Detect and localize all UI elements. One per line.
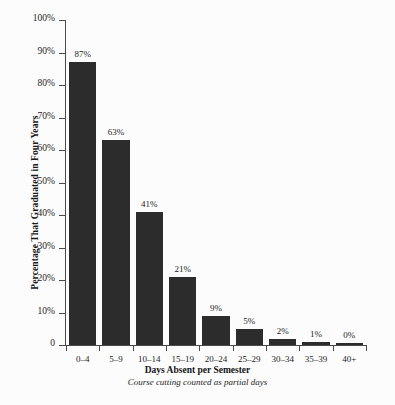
x-axis-tick-mark	[133, 345, 134, 351]
y-axis-tick-label: 10%	[38, 306, 55, 316]
x-axis-category-label: 40+	[333, 354, 366, 364]
x-axis-category-label: 15–19	[166, 354, 199, 364]
bar-slot[interactable]: 63%	[99, 20, 132, 345]
bar-value-label: 0%	[333, 330, 366, 340]
y-axis-tick-label: 80%	[38, 78, 55, 88]
y-axis-tick-mark	[59, 118, 66, 119]
bar-value-label: 21%	[166, 264, 199, 274]
x-axis-tick-mark	[299, 345, 300, 351]
bar-slot[interactable]: 5%	[233, 20, 266, 345]
y-axis-tick-label: 100%	[33, 13, 55, 23]
x-axis-tick-mark	[166, 345, 167, 351]
x-axis-tick-mark	[66, 345, 67, 351]
x-axis-tick-mark	[99, 345, 100, 351]
x-axis-tick-mark	[366, 345, 367, 351]
x-axis-tick-mark	[266, 345, 267, 351]
bar-slot[interactable]: 87%	[66, 20, 99, 345]
bar-chart-figure: Percentage That Graduated in Four Years …	[0, 0, 395, 405]
y-axis-tick-mark	[59, 85, 66, 86]
bar-value-label: 41%	[133, 199, 166, 209]
bar-value-label: 9%	[199, 303, 232, 313]
x-axis-category-label: 5–9	[99, 354, 132, 364]
y-axis-tick-label: 90%	[38, 46, 55, 56]
bar[interactable]	[169, 277, 196, 345]
bar-slot[interactable]: 1%	[299, 20, 332, 345]
bar-value-label: 1%	[299, 329, 332, 339]
bar-value-label: 2%	[266, 326, 299, 336]
x-axis-line	[65, 345, 366, 346]
plot-area: 010%20%30%40%50%60%70%80%90%100% 87%63%4…	[66, 20, 366, 345]
y-axis-tick-mark	[59, 280, 66, 281]
bar[interactable]	[136, 212, 163, 345]
bar[interactable]	[202, 316, 229, 345]
x-axis-category-label: 0–4	[66, 354, 99, 364]
y-axis-tick-mark	[59, 248, 66, 249]
bar-series: 87%63%41%21%9%5%2%1%0%	[66, 20, 366, 345]
bar[interactable]	[336, 343, 363, 346]
y-axis-title: Percentage That Graduated in Four Years	[28, 0, 42, 405]
x-axis-category-label: 10–14	[133, 354, 166, 364]
bar-value-label: 87%	[66, 49, 99, 59]
y-axis-tick-label: 70%	[38, 111, 55, 121]
y-axis-tick-mark	[59, 53, 66, 54]
y-axis-tick-label: 0	[50, 338, 55, 348]
bar-slot[interactable]: 2%	[266, 20, 299, 345]
bar-value-label: 63%	[99, 127, 132, 137]
x-axis-category-label: 20–24	[199, 354, 232, 364]
y-axis-tick-label: 30%	[38, 241, 55, 251]
bar[interactable]	[269, 339, 296, 346]
bar-value-label: 5%	[233, 316, 266, 326]
y-axis-tick-mark	[59, 20, 66, 21]
y-axis-tick-label: 40%	[38, 208, 55, 218]
y-axis-tick-label: 60%	[38, 143, 55, 153]
bar[interactable]	[69, 62, 96, 345]
y-axis-tick-label: 50%	[38, 176, 55, 186]
y-axis-tick-mark	[59, 183, 66, 184]
y-axis-tick-mark	[59, 150, 66, 151]
bar-slot[interactable]: 9%	[199, 20, 232, 345]
y-axis-tick-mark	[59, 313, 66, 314]
x-axis-category-label: 35–39	[299, 354, 332, 364]
x-axis-tick-mark	[199, 345, 200, 351]
bar-slot[interactable]: 0%	[333, 20, 366, 345]
bar-slot[interactable]: 21%	[166, 20, 199, 345]
y-axis-tick-mark	[59, 215, 66, 216]
bar[interactable]	[302, 342, 329, 345]
x-axis-tick-mark	[333, 345, 334, 351]
x-axis-subtitle: Course cutting counted as partial days	[0, 377, 395, 387]
y-axis-tick-mark	[59, 345, 66, 346]
x-axis-category-label: 30–34	[266, 354, 299, 364]
x-axis-tick-mark	[233, 345, 234, 351]
x-axis-category-label: 25–29	[233, 354, 266, 364]
x-axis-title: Days Absent per Semester	[0, 365, 395, 375]
bar[interactable]	[236, 329, 263, 345]
bar-slot[interactable]: 41%	[133, 20, 166, 345]
y-axis-tick-label: 20%	[38, 273, 55, 283]
bar[interactable]	[102, 140, 129, 345]
